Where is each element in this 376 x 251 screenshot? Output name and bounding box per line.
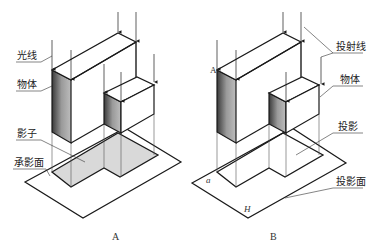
label-shadow: 影子 — [17, 129, 37, 139]
label-projection: 投影 — [338, 122, 358, 132]
panel-a — [13, 12, 181, 218]
big-box-front-face — [52, 70, 71, 143]
label-projection-plane: 投影面 — [336, 177, 366, 187]
label-light-rays: 光线 — [17, 51, 37, 61]
big-box-front-face — [217, 70, 236, 143]
projection-diagram: 光线 物体 影子 承影面 A 投射线 物体 投影 投影面 A a H B — [0, 0, 376, 251]
caption-a: A — [112, 232, 119, 242]
label-object-a: 物体 — [17, 80, 37, 90]
point-label-A: A — [210, 66, 217, 75]
diagram-graphics — [0, 0, 376, 251]
caption-b: B — [270, 232, 277, 242]
label-object-b: 物体 — [340, 75, 360, 85]
label-projection-lines: 投射线 — [336, 42, 366, 52]
plane-label-H: H — [244, 205, 251, 214]
big-box-top-face — [52, 33, 136, 80]
big-box-top-face — [217, 33, 301, 80]
label-shadow-plane: 承影面 — [14, 158, 44, 168]
point-label-a: a — [206, 176, 211, 185]
